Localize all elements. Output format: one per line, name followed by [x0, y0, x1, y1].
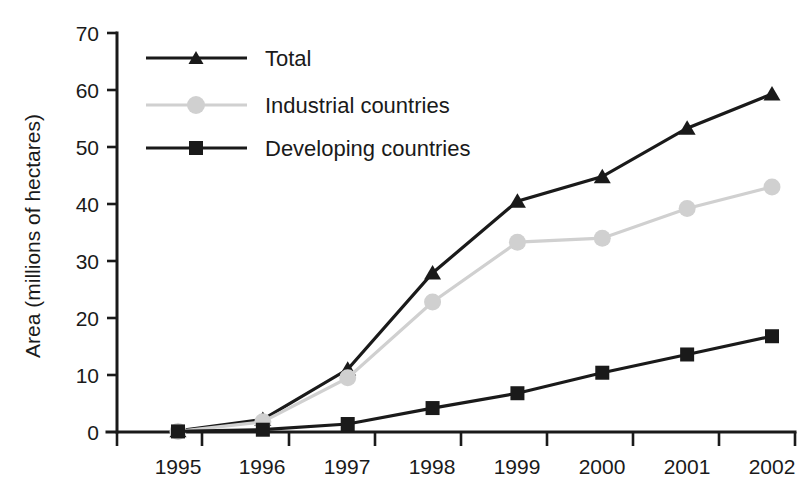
data-point-marker[interactable]: [256, 423, 270, 437]
x-tick-labels: 1995 1996 1997 1998 1999 2000 2001 2002: [155, 455, 796, 478]
legend-label-industrial-countries: Industrial countries: [265, 93, 450, 118]
legend-label-developing-countries: Developing countries: [265, 136, 470, 161]
data-point-marker[interactable]: [426, 401, 440, 415]
data-point-marker[interactable]: [594, 230, 611, 247]
series-line: [178, 187, 772, 432]
x-tick-label-1995: 1995: [155, 455, 202, 478]
y-tick-label-70: 70: [76, 22, 99, 45]
square-marker-icon: [189, 141, 203, 155]
data-point-marker[interactable]: [679, 200, 696, 217]
y-tick-label-0: 0: [87, 421, 99, 444]
data-point-marker[interactable]: [171, 424, 185, 438]
x-tick-label-2001: 2001: [664, 455, 711, 478]
data-point-marker[interactable]: [765, 329, 779, 343]
x-tick-label-1996: 1996: [239, 455, 286, 478]
chart-canvas: Area (millions of hectares) 70 60 50 40 …: [0, 0, 810, 500]
line-chart: Area (millions of hectares) 70 60 50 40 …: [0, 0, 810, 500]
data-point-marker[interactable]: [339, 369, 356, 386]
data-point-marker[interactable]: [424, 294, 441, 311]
x-tick-label-1998: 1998: [409, 455, 456, 478]
legend-label-total: Total: [265, 46, 311, 71]
data-point-marker[interactable]: [594, 169, 611, 184]
data-point-marker[interactable]: [595, 366, 609, 380]
series-total: [170, 86, 781, 437]
data-point-marker[interactable]: [763, 86, 780, 101]
y-tick-label-30: 30: [76, 250, 99, 273]
legend-item-total[interactable]: Total: [146, 46, 311, 71]
data-point-marker[interactable]: [509, 234, 526, 251]
y-tick-labels: 70 60 50 40 30 20 10 0: [76, 22, 99, 444]
y-tick-label-50: 50: [76, 136, 99, 159]
y-axis-title: Area (millions of hectares): [21, 114, 44, 358]
series-layer: [170, 86, 781, 440]
data-point-marker[interactable]: [341, 417, 355, 431]
circle-marker-icon: [187, 96, 205, 114]
legend-item-developing-countries[interactable]: Developing countries: [146, 136, 470, 161]
x-tick-label-2002: 2002: [749, 455, 796, 478]
chart-legend: Total Industrial countries Developing co…: [146, 46, 470, 161]
y-tick-label-40: 40: [76, 193, 99, 216]
data-point-marker[interactable]: [680, 347, 694, 361]
legend-item-industrial-countries[interactable]: Industrial countries: [146, 93, 450, 118]
y-tick-label-10: 10: [76, 364, 99, 387]
x-tick-label-2000: 2000: [579, 455, 626, 478]
y-tick-label-20: 20: [76, 307, 99, 330]
x-axis-ticks: [117, 432, 795, 446]
x-tick-label-1997: 1997: [324, 455, 371, 478]
x-tick-label-1999: 1999: [494, 455, 541, 478]
data-point-marker[interactable]: [763, 178, 780, 195]
y-tick-label-60: 60: [76, 79, 99, 102]
data-point-marker[interactable]: [510, 386, 524, 400]
